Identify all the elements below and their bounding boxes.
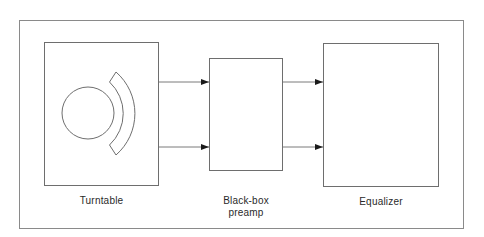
preamp-label-line2: preamp <box>196 207 296 219</box>
preamp-label-line1: Black-box <box>196 195 296 207</box>
turntable-label: Turntable <box>44 195 159 207</box>
turntable-block <box>45 43 159 186</box>
tonearm-arc-icon <box>110 72 135 155</box>
platter-icon <box>62 87 114 139</box>
preamp-block <box>210 59 283 171</box>
equalizer-block <box>324 44 439 187</box>
equalizer-label: Equalizer <box>323 196 439 208</box>
